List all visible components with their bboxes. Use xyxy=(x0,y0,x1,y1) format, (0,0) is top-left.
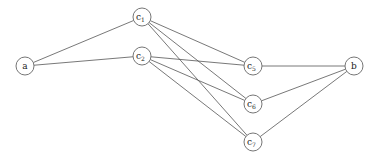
edge-c1-c5 xyxy=(150,21,245,63)
node-a: a xyxy=(16,57,34,75)
graph-diagram: ac1c2c5c6c7b xyxy=(0,0,376,160)
edge-a-c2 xyxy=(34,57,133,65)
edges-layer xyxy=(33,20,347,136)
graph-svg: ac1c2c5c6c7b xyxy=(0,0,376,160)
node-c2: c2 xyxy=(133,47,151,65)
node-c7: c7 xyxy=(244,133,262,151)
edge-c2-c7 xyxy=(149,62,246,137)
node-c5: c5 xyxy=(244,57,262,75)
node-label: b xyxy=(351,61,357,71)
edge-c2-c5 xyxy=(151,57,244,65)
edge-c1-c6 xyxy=(149,23,246,99)
edge-a-c1 xyxy=(33,20,133,62)
node-c1: c1 xyxy=(133,8,151,26)
node-c6: c6 xyxy=(244,95,262,113)
node-label: a xyxy=(22,61,28,71)
edge-c7-b xyxy=(260,71,347,136)
edge-c2-c6 xyxy=(150,60,244,101)
nodes-layer: ac1c2c5c6c7b xyxy=(16,8,363,151)
edge-c1-c7 xyxy=(148,24,247,136)
edge-c6-b xyxy=(261,69,345,101)
node-b: b xyxy=(345,57,363,75)
